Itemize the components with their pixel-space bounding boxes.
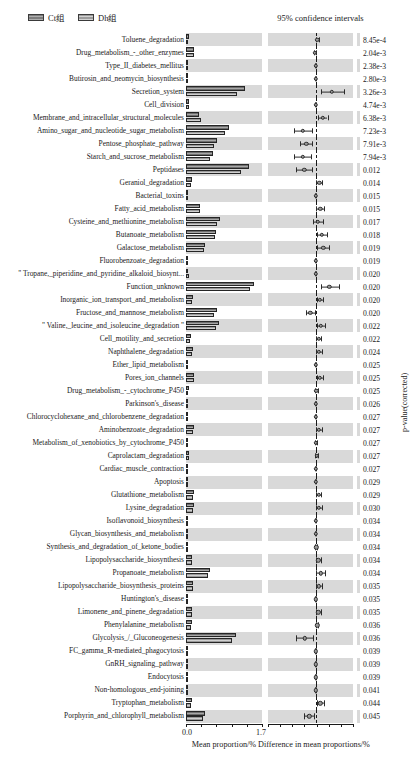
pvalue-label: 0.027: [363, 465, 380, 474]
row-background-stripe: [357, 150, 360, 163]
bar-dh: [186, 625, 191, 629]
confidence-interval-marker: [268, 645, 353, 658]
category-label: Chlorocyclohexane_and_chlorobenzene_degr…: [27, 413, 184, 420]
bar-dh: [186, 261, 188, 265]
chart-row: GnRH_signaling_pathway0.039: [0, 658, 418, 671]
chart-row: Cardiac_muscle_contraction0.027: [0, 463, 418, 476]
bar-ct: [186, 230, 216, 234]
row-background-stripe: [357, 410, 360, 423]
error-bar-cap-upper: [322, 583, 323, 588]
mean-proportion-bars: [186, 593, 262, 606]
confidence-interval-marker: [268, 254, 353, 267]
mean-proportion-bars: [186, 98, 262, 111]
confidence-interval-marker: [268, 632, 353, 645]
category-label: Pentose_phosphate_pathway: [99, 140, 184, 147]
bar-dh: [186, 456, 189, 460]
confidence-interval-marker: [268, 150, 353, 163]
pvalue-label: 0.017: [363, 217, 380, 226]
bar-ct: [186, 73, 188, 77]
difference-point: [317, 298, 321, 302]
legend-item-ct: Ct组: [28, 11, 65, 23]
bar-dh: [186, 417, 188, 421]
confidence-interval-marker: [268, 371, 353, 384]
row-background-stripe: [357, 684, 360, 697]
bar-ct: [186, 633, 236, 637]
confidence-interval-marker: [268, 489, 353, 502]
difference-point: [301, 128, 305, 132]
confidence-interval-marker: [268, 423, 353, 436]
pvalue-label: 0.029: [363, 491, 380, 500]
mean-proportion-bars: [186, 46, 262, 59]
error-bar-cap-upper: [325, 323, 326, 328]
error-bar-cap-upper: [321, 609, 322, 614]
chart-row: Cell_motility_and_secretion0.022: [0, 332, 418, 345]
chart-row: Secretion_system3.26e-3: [0, 85, 418, 98]
bar-ct: [186, 386, 189, 390]
mean-proportion-bars: [186, 619, 262, 632]
bar-ct: [186, 594, 188, 598]
category-label: Tryptophan_metabolism: [112, 700, 184, 707]
mean-proportion-bars: [186, 241, 262, 254]
bar-ct: [186, 555, 192, 559]
confidence-interval-marker: [268, 137, 353, 150]
bar-ct: [186, 438, 188, 442]
bar-dh: [186, 248, 204, 252]
row-background-stripe: [357, 528, 360, 541]
pvalue-label: 7.91e-3: [363, 139, 386, 148]
chart-row: Metabolism_of_xenobiotics_by_cytochrome_…: [0, 436, 418, 449]
mean-proportion-bars: [186, 528, 262, 541]
mean-proportion-bars: [186, 176, 262, 189]
error-bar-cap-upper: [327, 232, 328, 237]
pvalue-label: 0.039: [363, 647, 380, 656]
confidence-interval-marker: [268, 59, 353, 72]
pvalue-label: 0.027: [363, 425, 380, 434]
row-background-stripe: [357, 632, 360, 645]
error-bar-cap-upper: [325, 570, 326, 575]
confidence-interval-marker: [268, 33, 353, 46]
row-background-stripe: [357, 371, 360, 384]
left-axis-tick-min: 0.0: [182, 728, 192, 737]
category-label: Secretion_system: [132, 88, 184, 95]
bar-ct: [186, 204, 200, 208]
legend-swatch-dh-icon: [78, 14, 94, 21]
category-label: Fluorobenzoate_degradation: [99, 257, 184, 264]
category-label: Geraniol_degradation: [120, 179, 184, 186]
chart-row: " Tropane,_piperidine_and_pyridine_alkal…: [0, 267, 418, 280]
zero-reference-line: [316, 150, 317, 163]
category-label: Synthesis_and_degradation_of_ketone_bodi…: [46, 543, 184, 550]
category-label: " Tropane,_piperidine_and_pyridine_alkal…: [18, 270, 184, 277]
mean-proportion-bars: [186, 580, 262, 593]
pvalue-label: 0.034: [363, 556, 380, 565]
chart-row: Type_II_diabetes_mellitus2.38e-3: [0, 59, 418, 72]
difference-point: [313, 532, 317, 536]
bar-ct: [186, 295, 193, 299]
chart-row: Butanoate_metabolism0.018: [0, 228, 418, 241]
pvalue-label: 0.022: [363, 334, 380, 343]
difference-point: [320, 233, 324, 237]
difference-point: [316, 337, 320, 341]
bar-ct: [186, 412, 188, 416]
mean-proportion-bars: [186, 554, 262, 567]
bar-ct: [186, 646, 188, 650]
bar-dh: [186, 144, 214, 148]
chart-row: Parkinson's_disease0.026: [0, 397, 418, 410]
bar-ct: [186, 451, 189, 455]
category-label: FC_gamma_R-mediated_phagocytosis: [69, 648, 184, 655]
confidence-interval-marker: [268, 619, 353, 632]
mean-proportion-bars: [186, 85, 262, 98]
mean-proportion-bars: [186, 489, 262, 502]
error-bar-cap-lower: [294, 128, 295, 133]
pvalue-label: 0.024: [363, 347, 380, 356]
bar-dh: [186, 40, 188, 44]
bar-dh: [186, 469, 188, 473]
error-bar-cap-lower: [321, 89, 322, 94]
bar-ct: [186, 659, 188, 663]
pvalue-label: 0.036: [363, 634, 380, 643]
confidence-interval-marker: [268, 684, 353, 697]
chart-row: Fructose_and_mannose_metabolism0.020: [0, 306, 418, 319]
category-label: Bacterial_toxins: [136, 192, 184, 199]
confidence-interval-marker: [268, 176, 353, 189]
chart-row: " Valine,_leucine_and_isoleucine_degrada…: [0, 319, 418, 332]
category-label: " Valine,_leucine_and_isoleucine_degrada…: [42, 322, 184, 329]
pvalue-label: 0.020: [363, 282, 380, 291]
